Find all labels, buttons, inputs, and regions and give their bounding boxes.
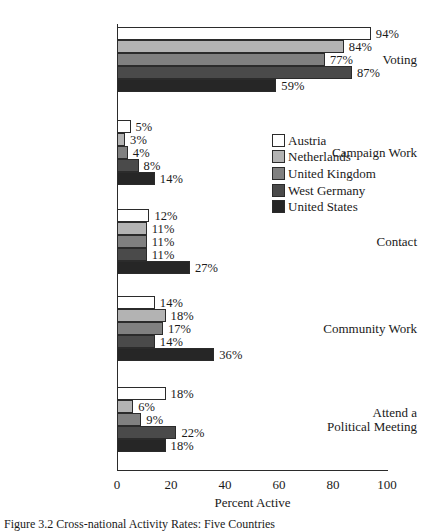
bar-row: 77%	[117, 53, 387, 66]
bar	[117, 335, 155, 348]
bar	[117, 222, 147, 235]
bar-row: 14%	[117, 335, 387, 348]
bar	[117, 426, 176, 439]
category-label: Voting	[383, 53, 417, 67]
bar	[117, 133, 125, 146]
bar-value-label: 11%	[152, 247, 175, 262]
bar-row: 18%	[117, 439, 387, 452]
bar-row: 27%	[117, 261, 387, 274]
bar-value-label: 36%	[219, 347, 242, 362]
bar-row: 87%	[117, 66, 387, 79]
bar	[117, 209, 149, 222]
bar	[117, 439, 166, 452]
legend-item: Netherlands	[272, 149, 376, 166]
bar-row: 9%	[117, 413, 387, 426]
x-axis-title: Percent Active	[117, 495, 388, 511]
bar	[117, 296, 155, 309]
bar	[117, 413, 141, 426]
legend-label: Austria	[288, 134, 326, 147]
bar-group: 18%6%9%22%18%	[117, 387, 387, 452]
x-tick-label: 40	[219, 477, 232, 493]
figure-caption: Figure 3.2 Cross-national Activity Rates…	[4, 517, 422, 532]
bar	[117, 40, 344, 53]
bar-value-label: 59%	[281, 78, 304, 93]
bar	[117, 172, 155, 185]
bar-value-label: 18%	[171, 438, 194, 453]
x-tick-label: 60	[273, 477, 286, 493]
bar	[117, 66, 352, 79]
legend-swatch-icon	[272, 200, 285, 213]
bar	[117, 79, 276, 92]
bar-row: 36%	[117, 348, 387, 361]
x-tick-label: 100	[377, 477, 397, 493]
bar-row: 94%	[117, 27, 387, 40]
x-tick-label: 0	[114, 477, 121, 493]
bar	[117, 146, 128, 159]
legend-swatch-icon	[272, 184, 285, 197]
legend-item: Austria	[272, 132, 376, 149]
bar	[117, 348, 214, 361]
legend-item: West Germany	[272, 182, 376, 199]
legend: AustriaNetherlandsUnited KingdomWest Ger…	[272, 132, 376, 215]
bar-group: 14%18%17%14%36%	[117, 296, 387, 361]
bar	[117, 159, 139, 172]
legend-swatch-icon	[272, 167, 285, 180]
bar-value-label: 18%	[171, 386, 194, 401]
bar-value-label: 94%	[376, 26, 399, 41]
bar	[117, 248, 147, 261]
bar-row: 18%	[117, 309, 387, 322]
bar-row: 11%	[117, 248, 387, 261]
bar	[117, 261, 190, 274]
bar-value-label: 9%	[146, 412, 163, 427]
bar-group: 12%11%11%11%27%	[117, 209, 387, 274]
bar-value-label: 8%	[144, 158, 161, 173]
x-axis-line	[117, 470, 388, 471]
legend-item: United States	[272, 198, 376, 215]
bar	[117, 322, 163, 335]
bar	[117, 120, 131, 133]
bar	[117, 400, 133, 413]
bar-row: 59%	[117, 79, 387, 92]
bar-value-label: 14%	[160, 171, 183, 186]
bar-row: 22%	[117, 426, 387, 439]
bar-row: 14%	[117, 296, 387, 309]
bar	[117, 235, 147, 248]
legend-label: United States	[288, 200, 358, 213]
legend-label: Netherlands	[288, 150, 351, 163]
legend-swatch-icon	[272, 150, 285, 163]
bar-value-label: 77%	[330, 52, 353, 67]
bar-row: 17%	[117, 322, 387, 335]
bar	[117, 309, 166, 322]
legend-label: West Germany	[288, 184, 365, 197]
bar-row: 18%	[117, 387, 387, 400]
bar	[117, 53, 325, 66]
bar	[117, 27, 371, 40]
legend-label: United Kingdom	[288, 167, 376, 180]
bar-value-label: 14%	[160, 334, 183, 349]
bar-group: 94%84%77%87%59%	[117, 27, 387, 92]
x-tick-label: 20	[165, 477, 178, 493]
legend-swatch-icon	[272, 134, 285, 147]
x-tick-label: 80	[327, 477, 340, 493]
bar-value-label: 27%	[195, 260, 218, 275]
bar-value-label: 87%	[357, 65, 380, 80]
legend-item: United Kingdom	[272, 165, 376, 182]
